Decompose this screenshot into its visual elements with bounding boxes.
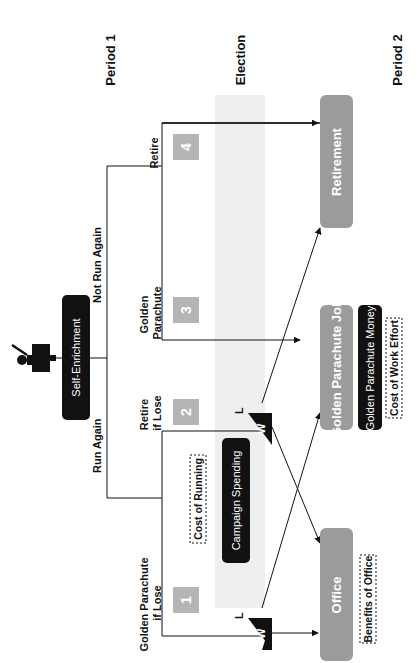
svg-text:L: L (233, 407, 245, 414)
cost-of-running-label: Cost of Running (192, 458, 204, 540)
root-label: Self-Enrichment (70, 318, 82, 396)
golden-parachute-job-label: Golden Parachute Job (329, 299, 344, 437)
lose-label: L (233, 612, 245, 619)
svg-text:W: W (255, 423, 267, 434)
office-label: Office (329, 577, 344, 614)
label-run-again: Run Again (91, 418, 103, 473)
retirement-label: Retirement (329, 127, 344, 196)
option-2-label: Retire if Lose (138, 395, 163, 430)
win-label: W (255, 628, 267, 639)
svg-text:2: 2 (178, 408, 194, 416)
politician-at-podium-icon (12, 344, 56, 372)
benefits-of-office-label: Benefits of Office (362, 555, 374, 642)
cost-of-work-effort-label: Cost of Work Effort (388, 319, 400, 416)
option-4-label: Retire (148, 137, 160, 168)
golden-parachute-money-label: Golden Parachute Money (364, 305, 376, 430)
arrow-lose-to-retirement (262, 228, 320, 403)
diagram-canvas: Period 1 Election Period 2 Self-Enrichme… (0, 0, 419, 663)
svg-text:1: 1 (178, 596, 194, 604)
election-node-option-1: W L (233, 612, 272, 650)
campaign-spending-label: Campaign Spending (230, 451, 242, 551)
svg-text:4: 4 (178, 143, 194, 151)
svg-text:3: 3 (178, 306, 194, 314)
header-period-2: Period 2 (390, 34, 405, 85)
rotated-stage: Period 1 Election Period 2 Self-Enrichme… (0, 0, 419, 663)
option-1-label: Golden Parachute if Lose (138, 554, 163, 651)
arrow-win-to-office-2 (272, 427, 320, 543)
option-3-label: Golden Parachute (138, 286, 163, 339)
label-not-run-again: Not Run Again (91, 227, 103, 303)
header-period-1: Period 1 (103, 34, 118, 85)
decision-tree-diagram: Period 1 Election Period 2 Self-Enrichme… (0, 0, 419, 663)
header-election: Election (233, 35, 248, 86)
